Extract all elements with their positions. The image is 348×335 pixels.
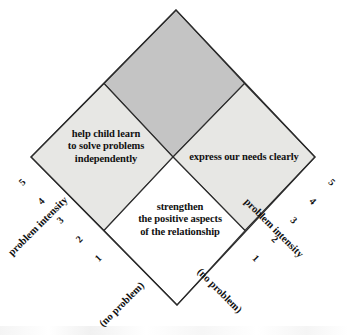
quadrant-label-bottom: strengthen the positive aspects of the r… <box>110 201 250 238</box>
diagram-canvas: help child learn to solve problems indep… <box>0 0 348 335</box>
quadrant-label-right: express our needs clearly <box>178 151 310 163</box>
quadrant-label-left: help child learn to solve problems indep… <box>36 128 176 165</box>
diamond-graphic <box>0 0 348 335</box>
